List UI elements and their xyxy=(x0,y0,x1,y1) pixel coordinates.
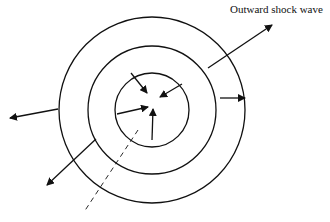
inward-arrow-top-right xyxy=(160,84,182,97)
shock-wave-diagram xyxy=(0,0,330,222)
middle-shock-circle xyxy=(88,46,216,174)
outward-shock-wave-label: Outward shock wave xyxy=(230,3,323,15)
inward-arrow-bottom xyxy=(152,109,153,140)
inward-arrow-left xyxy=(117,107,148,114)
outer-shock-circle xyxy=(59,17,245,203)
outward-arrow-upper-right xyxy=(208,25,272,68)
outward-arrow-left xyxy=(10,109,58,118)
